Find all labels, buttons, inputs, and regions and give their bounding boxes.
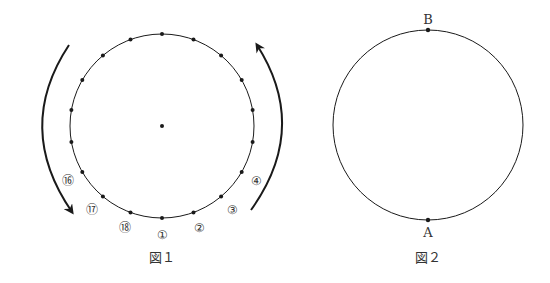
point-a-label: A [422, 225, 433, 240]
figure-1-caption: 図１ [149, 250, 175, 265]
circle-point-9 [192, 38, 196, 42]
figure-2-circle [333, 30, 523, 220]
point-b-label: B [423, 12, 433, 27]
circle-point-12 [101, 54, 105, 58]
point-label-1: ① [157, 228, 168, 242]
figure-2-caption: 図２ [415, 250, 441, 265]
circle-point-14 [69, 108, 73, 112]
point-a [426, 218, 430, 222]
point-label-2: ② [194, 221, 205, 235]
figure-1-center-point [160, 124, 164, 128]
point-label-17: ⑰ [86, 203, 98, 217]
circle-point-17 [101, 195, 105, 199]
circle-point-3 [219, 195, 223, 199]
circle-point-10 [160, 32, 164, 36]
circle-point-2 [192, 211, 196, 215]
figure-1: ①②③④⑯⑰⑱ 図１ [42, 32, 282, 265]
circle-point-1 [160, 216, 164, 220]
circle-point-11 [129, 38, 133, 42]
point-b [426, 28, 430, 32]
circle-point-15 [69, 140, 73, 144]
figure-2: B A 図２ [333, 12, 523, 265]
circle-point-5 [251, 140, 255, 144]
point-label-3: ③ [227, 203, 238, 217]
circle-point-18 [129, 211, 133, 215]
point-label-16: ⑯ [62, 174, 74, 188]
circle-point-7 [240, 78, 244, 82]
point-label-4: ④ [251, 174, 262, 188]
circle-point-8 [219, 54, 223, 58]
diagram-canvas: ①②③④⑯⑰⑱ 図１ B A 図２ [0, 0, 550, 283]
circle-point-6 [251, 108, 255, 112]
figure-1-point-labels: ①②③④⑯⑰⑱ [62, 174, 262, 243]
circle-point-13 [80, 78, 84, 82]
point-label-18: ⑱ [119, 221, 131, 235]
circle-point-4 [240, 170, 244, 174]
circle-point-16 [80, 170, 84, 174]
